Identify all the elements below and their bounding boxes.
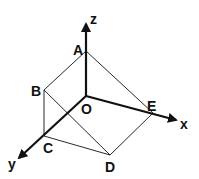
edge-a-e <box>86 51 153 113</box>
y-axis-label: y <box>8 156 16 172</box>
z-axis-label: z <box>90 11 97 27</box>
point-d-label: D <box>105 159 115 175</box>
point-c-label: C <box>43 140 53 156</box>
wireframe-edges <box>44 51 153 155</box>
x-axis <box>86 96 176 120</box>
x-axis-label: x <box>180 116 188 132</box>
edge-d-e <box>110 113 153 155</box>
axes <box>19 24 176 158</box>
point-e-label: E <box>147 98 156 114</box>
point-a-label: A <box>73 42 83 58</box>
point-b-label: B <box>31 83 41 99</box>
diagram-canvas: z x y A B C D E O <box>0 0 199 179</box>
point-o-label: O <box>81 101 92 117</box>
